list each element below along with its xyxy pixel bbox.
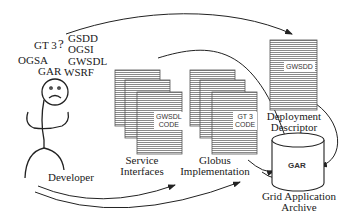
gwsdl-code-tag: GWSDL CODE [154, 112, 184, 130]
deployment-descriptor-label: Deployment Descriptor [262, 111, 326, 133]
grid-application-archive-label: Grid Application Archive [254, 191, 344, 213]
gar-diagram: GT 3 GSDD OGSI OGSA GWSDL GAR WSRF ? Dev… [0, 0, 353, 223]
service-interfaces-label: Service Interfaces [112, 155, 172, 177]
gt3-code-tag: GT 3 CODE [233, 112, 257, 130]
deployment-descriptor-doc [270, 40, 317, 110]
arrow-to-service-interfaces [38, 185, 175, 199]
acronym-ogsi: OGSI [68, 44, 94, 55]
gwsdd-tag: GWSDD [284, 62, 315, 72]
acronym-gt3: GT 3 [34, 40, 57, 51]
question-mark: ? [58, 38, 64, 49]
gar-cylinder-label: GAR [288, 161, 306, 170]
developer-label: Developer [48, 172, 94, 183]
developer-stick-figure [25, 79, 68, 178]
arrow-to-descriptor [66, 14, 292, 34]
acronym-gar: GAR [38, 66, 61, 77]
acronym-wsrf: WSRF [64, 67, 94, 78]
globus-implementation-label: Globus Implementation [177, 155, 253, 177]
